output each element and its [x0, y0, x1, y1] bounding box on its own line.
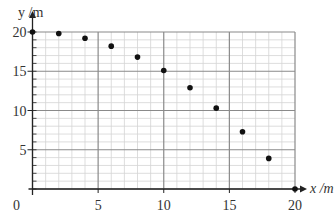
x-axis-arrow-icon	[300, 186, 307, 193]
y-tick-label: 20	[13, 25, 27, 40]
x-tick-label: 5	[95, 198, 102, 213]
tick-labels: 051015205101520	[13, 25, 303, 213]
x-tick-label: 20	[288, 198, 302, 213]
scatter-chart: 051015205101520 y /m x /m	[0, 0, 335, 216]
data-point	[266, 156, 272, 162]
data-point	[213, 105, 219, 111]
data-point	[240, 129, 246, 135]
y-tick-label: 15	[13, 64, 27, 79]
data-point	[30, 29, 36, 35]
data-point	[161, 68, 167, 74]
x-axis-label: x /m	[309, 181, 334, 196]
data-point	[56, 31, 62, 37]
x-tick-label: 15	[222, 198, 236, 213]
data-point	[135, 54, 141, 60]
y-tick-label: 10	[13, 104, 27, 119]
y-axis-label: y /m	[18, 5, 43, 20]
data-point	[292, 186, 298, 192]
data-point	[82, 35, 88, 41]
y-tick-label: 5	[20, 143, 27, 158]
data-point	[187, 85, 193, 91]
x-tick-label: 0	[13, 198, 20, 213]
x-tick-label: 10	[157, 198, 171, 213]
data-point	[108, 43, 114, 49]
